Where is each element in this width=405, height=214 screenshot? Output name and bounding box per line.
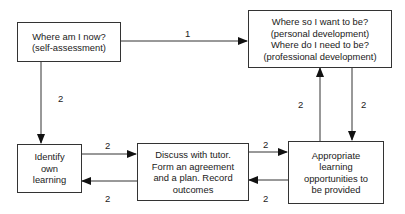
edge-label-opportunities-to-want: 2 bbox=[298, 100, 303, 110]
node-text: (professional development) bbox=[263, 51, 376, 63]
node-discuss-with-tutor: Discuss with tutor. Form an agreement an… bbox=[137, 143, 249, 201]
node-text: Form an agreement bbox=[152, 161, 234, 173]
node-text: learning bbox=[33, 174, 66, 186]
edge-label-identify-to-discuss: 2 bbox=[105, 141, 110, 151]
edge-label-now-to-want: 1 bbox=[185, 29, 190, 39]
node-where-do-i-want-to-be: Where so I want to be? (personal develop… bbox=[248, 10, 392, 68]
node-text: Discuss with tutor. bbox=[155, 149, 231, 161]
node-text: (personal development) bbox=[271, 28, 370, 40]
node-text: Where so I want to be? bbox=[272, 16, 368, 28]
node-text: Where do I need to be? bbox=[271, 39, 369, 51]
node-identify-own-learning: Identify own learning bbox=[17, 144, 82, 193]
node-text: learning bbox=[319, 161, 352, 173]
node-text: own bbox=[41, 163, 58, 175]
node-where-am-i-now: Where am I now? (self-assessment) bbox=[17, 22, 121, 62]
node-learning-opportunities: Appropriate learning opportunities to be… bbox=[288, 141, 384, 204]
edge-label-want-to-opportunities: 2 bbox=[361, 100, 366, 110]
edge-label-discuss-to-opportunities: 2 bbox=[263, 140, 268, 150]
node-text: Identify bbox=[34, 151, 64, 163]
node-text: Where am I now? bbox=[32, 31, 105, 43]
edge-label-opportunities-to-discuss: 2 bbox=[263, 194, 268, 204]
node-text: be provided bbox=[312, 184, 361, 196]
edge-label-discuss-to-identify: 2 bbox=[105, 194, 110, 204]
node-text: Appropriate bbox=[312, 150, 360, 162]
node-text: and a plan. Record bbox=[153, 172, 232, 184]
edge-label-now-to-identify: 2 bbox=[58, 94, 63, 104]
node-text: opportunities to bbox=[304, 173, 368, 185]
node-text: outcomes bbox=[173, 184, 214, 196]
node-text: (self-assessment) bbox=[32, 42, 106, 54]
